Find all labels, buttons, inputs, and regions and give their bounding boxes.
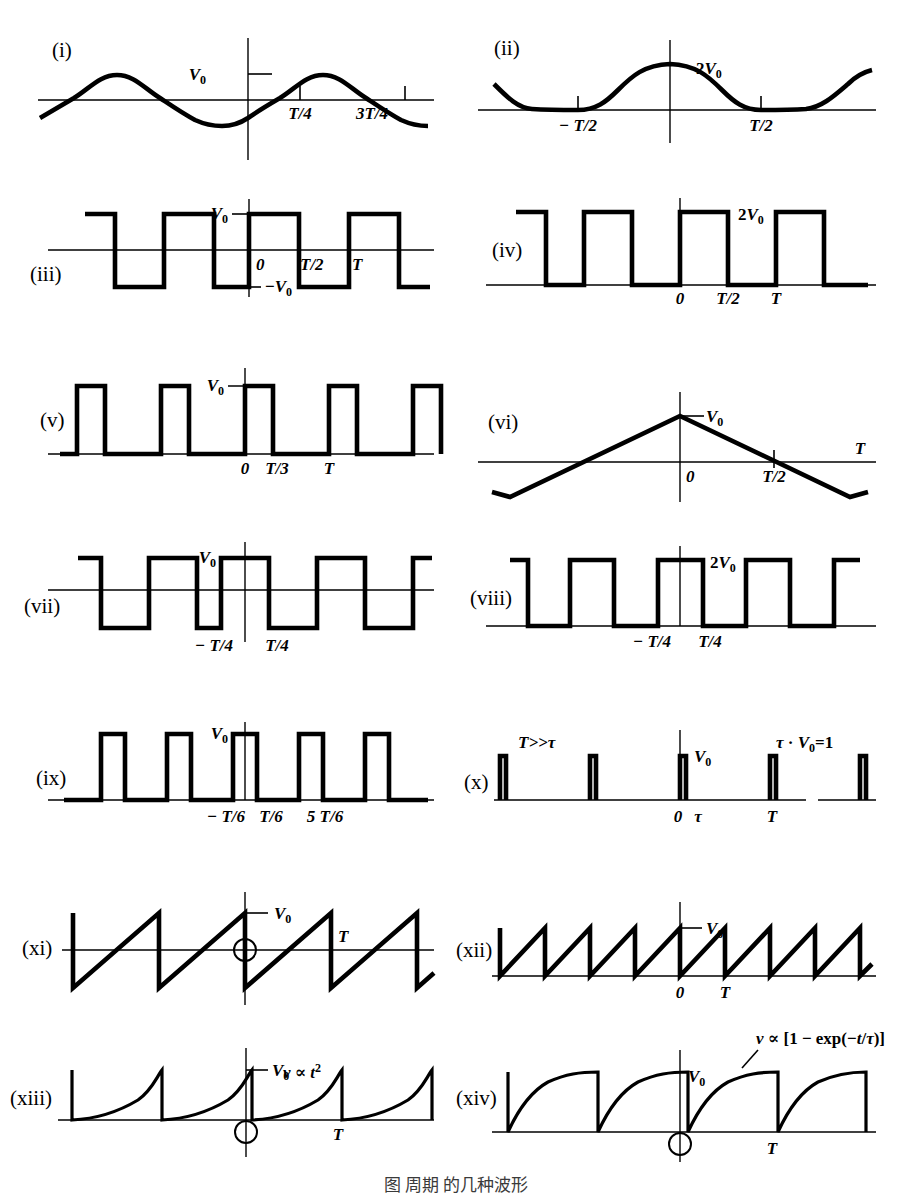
panel-label-x: (x) (464, 772, 489, 793)
label-tick-tau: τ (694, 807, 702, 826)
panel-iii: (iii) V0 −V0 0 T/2 T (0, 182, 456, 322)
label-axis-t: T (855, 439, 866, 458)
label-tick-t-over-6: T/6 (259, 807, 283, 826)
panel-viii: (viii) 2V0 − T/4 T/4 (456, 518, 912, 668)
panel-label-v: (v) (40, 410, 65, 431)
panel-label-xii: (xii) (456, 940, 492, 961)
label-tick-t-over-2: T/2 (762, 467, 786, 486)
label-tick-t: T (333, 1125, 344, 1144)
panel-label-ii: (ii) (494, 38, 520, 59)
waveform-iv: 2V0 0 T/2 T (456, 182, 912, 322)
label-tick-zero: 0 (686, 467, 695, 486)
label-tick-t-over-2: T/2 (749, 116, 773, 135)
panel-x: (x) T>>τ V0 τ · V0=1 0 τ T (456, 690, 912, 840)
panel-ii: (ii) 2V0 − T/2 T/2 (456, 18, 912, 168)
panel-iv: (iv) 2V0 0 T/2 T (456, 182, 912, 322)
label-amplitude-v0: V0 (688, 1067, 705, 1089)
exponential-charge-curve (508, 1072, 866, 1132)
panel-vii: (vii) V0 − T/4 T/4 (0, 518, 456, 668)
panel-label-viii: (viii) (470, 588, 512, 609)
label-tick-t: T (720, 983, 731, 1002)
label-tick-t: T (771, 289, 782, 308)
label-tick-zero: 0 (676, 983, 685, 1002)
label-tick-t: T (324, 459, 335, 478)
panel-label-xi: (xi) (22, 938, 52, 959)
label-tick-minus-t-over-6: − T/6 (207, 807, 246, 826)
label-amplitude-2v0: 2V0 (696, 59, 722, 81)
label-tick-minus-t-over-2: − T/2 (559, 116, 598, 135)
label-tick-t-over-2: T/2 (716, 289, 740, 308)
figure-root: (i) V0 T/4 3T/4 (ii) 2V0 − T/2 T/ (0, 0, 912, 1193)
label-tick-t: T (352, 255, 363, 274)
raised-cosine-curve (494, 64, 872, 110)
waveform-xiv: V0 v ∝ [1 − exp(−t/τ)] T (456, 1010, 912, 1170)
label-tick-zero: 0 (676, 289, 685, 308)
waveform-iii: V0 −V0 0 T/2 T (0, 182, 456, 322)
panel-label-i: (i) (52, 40, 72, 61)
label-equation-v-exp: v ∝ [1 − exp(−t/τ)] (756, 1029, 885, 1048)
label-condition-tau-v0: τ · V0=1 (776, 733, 833, 755)
panel-xiii: (xiii) V0 v ∝ t2 T (0, 1020, 456, 1170)
panel-label-iii: (iii) (30, 264, 62, 285)
label-tick-t: T (338, 927, 349, 946)
label-tick-t: T (767, 807, 778, 826)
impulse-train (500, 756, 866, 800)
panel-label-xiv: (xiv) (456, 1088, 497, 1109)
panel-label-vi: (vi) (488, 412, 518, 433)
waveform-viii: 2V0 − T/4 T/4 (456, 518, 912, 668)
panel-ix: (ix) V0 − T/6 T/6 5 T/6 (0, 690, 456, 840)
label-tick-t: T (767, 1139, 778, 1158)
square-wave-even-bipolar (78, 558, 432, 628)
panel-label-ix: (ix) (36, 768, 66, 789)
waveform-vii: V0 − T/4 T/4 (0, 518, 456, 668)
label-amplitude-v0: V0 (199, 548, 216, 570)
label-tick-t-over-4: T/4 (288, 104, 312, 123)
panel-xii: (xii) V0 0 T (456, 860, 912, 1010)
label-tick-zero: 0 (241, 459, 250, 478)
annotation-leader-line (742, 1050, 758, 1068)
panel-v: (v) V0 0 T/3 T (0, 350, 456, 490)
pulse-train-even (64, 734, 428, 800)
waveform-ix: V0 − T/6 T/6 5 T/6 (0, 690, 456, 840)
waveform-v: V0 0 T/3 T (0, 350, 456, 490)
square-wave-even-unipolar (510, 560, 860, 626)
panel-label-iv: (iv) (492, 240, 522, 261)
label-amplitude-v0: V0 (207, 376, 224, 398)
label-tick-minus-t-over-4: − T/4 (195, 636, 233, 655)
panel-vi: (vi) V0 0 T/2 T (456, 350, 912, 510)
label-tick-t-over-4: T/4 (265, 636, 289, 655)
label-amplitude-2v0: 2V0 (710, 553, 736, 575)
label-tick-minus-t-over-4: − T/4 (633, 632, 671, 651)
label-amplitude-v0: V0 (274, 904, 291, 926)
panel-label-xiii: (xiii) (10, 1088, 52, 1109)
figure-caption: 图 周期 的几种波形 (0, 1171, 912, 1193)
waveform-xiii: V0 v ∝ t2 T (0, 1020, 456, 1170)
waveform-ii: 2V0 − T/2 T/2 (456, 18, 912, 168)
waveform-xii: V0 0 T (456, 860, 912, 1010)
label-equation-v-prop-t2: v ∝ t2 (283, 1061, 321, 1082)
sawtooth-unipolar (500, 928, 872, 976)
waveform-x: T>>τ V0 τ · V0=1 0 τ T (456, 690, 912, 840)
parabolic-ramp-curve (72, 1070, 432, 1120)
label-tick-zero: 0 (674, 807, 683, 826)
label-amplitude-minus-v0: −V0 (265, 277, 292, 299)
label-amplitude-v0: V0 (706, 919, 723, 941)
label-condition-t-gg-tau: T>>τ (518, 733, 556, 752)
waveform-xi: V0 T (0, 860, 456, 1010)
label-amplitude-v0: V0 (211, 204, 228, 226)
label-amplitude-v0: V0 (189, 65, 206, 87)
waveform-vi: V0 0 T/2 T (456, 350, 912, 510)
label-tick-t-over-2: T/2 (300, 255, 324, 274)
label-tick-zero: 0 (256, 255, 265, 274)
square-wave-unipolar (516, 212, 868, 285)
panel-label-vii: (vii) (24, 596, 60, 617)
label-amplitude-2v0: 2V0 (738, 205, 764, 227)
label-amplitude-v0: V0 (211, 724, 228, 746)
pulse-train (60, 386, 441, 454)
panel-xiv: (xiv) V0 v ∝ [1 − exp(−t/τ)] T (456, 1010, 912, 1170)
label-amplitude-v0: V0 (706, 407, 723, 429)
label-tick-t-over-4: T/4 (698, 632, 722, 651)
label-tick-3t-over-4: 3T/4 (355, 104, 388, 123)
label-tick-5t-over-6: 5 T/6 (307, 807, 344, 826)
label-amplitude-v0: V0 (694, 747, 711, 769)
